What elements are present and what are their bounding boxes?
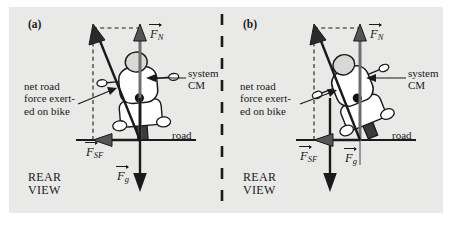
road-label-b: road — [392, 130, 412, 142]
system-cm-line2-b: CM — [408, 79, 439, 91]
normal-force-subscript-b: N — [378, 32, 384, 42]
net-road-force-line3-b: ed on bike — [240, 105, 291, 117]
rear-view-line2-b: VIEW — [243, 184, 276, 197]
friction-force-symbol-b: F — [300, 150, 308, 164]
panel-tag-b: (b) — [243, 18, 257, 30]
net-road-force-line2-b: force exert- — [240, 92, 291, 104]
system-cm-label-b: system CM — [408, 67, 439, 92]
net-road-force-line1-b: net road — [240, 80, 291, 92]
rear-view-line1-b: REAR — [243, 171, 276, 184]
friction-force-arrow-b — [314, 134, 360, 147]
normal-force-label-b: FN — [370, 28, 384, 42]
friction-force-subscript-b: SF — [308, 154, 318, 164]
friction-force-label-b: FSF — [300, 150, 317, 164]
normal-force-symbol-b: F — [370, 28, 378, 42]
gravity-force-symbol-b: F — [345, 152, 353, 166]
physics-figure: (a) net road force exert- ed on bike sys… — [0, 0, 451, 225]
rear-view-label-b: REAR VIEW — [243, 171, 276, 198]
system-cm-leader-b — [366, 74, 406, 82]
system-cm-line1-b: system — [408, 67, 439, 79]
gravity-force-label-b: Fg — [345, 152, 357, 166]
panel-b: (b) net road force exert- ed on bike sys… — [0, 0, 451, 225]
gravity-force-subscript-b: g — [353, 156, 357, 166]
net-road-force-label-b: net road force exert- ed on bike — [240, 80, 291, 117]
